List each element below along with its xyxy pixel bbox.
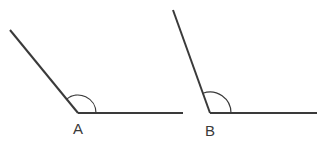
angle-b-upper-ray	[173, 10, 210, 113]
angle-b	[173, 10, 317, 113]
angle-a-upper-ray	[10, 30, 78, 113]
angle-diagram: A B	[0, 0, 326, 142]
angle-b-label: B	[205, 122, 215, 139]
angle-a	[10, 30, 183, 113]
angle-a-label: A	[73, 120, 83, 137]
diagram-svg: A B	[0, 0, 326, 142]
